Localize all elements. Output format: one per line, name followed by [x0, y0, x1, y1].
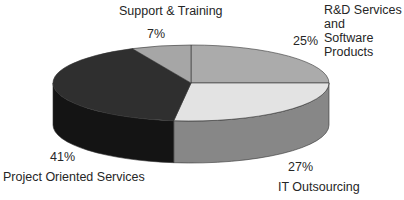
label-support-name: Support & Training — [119, 4, 223, 18]
slice-top-rnd — [191, 45, 329, 83]
label-project-name: Project Oriented Services — [3, 170, 145, 184]
label-it-pct: 27% — [288, 160, 313, 174]
label-rnd-line3: Software — [324, 31, 402, 45]
label-it-name: IT Outsourcing — [278, 180, 360, 194]
label-project-pct: 41% — [50, 150, 75, 164]
label-rnd-line1: R&D Services — [324, 3, 402, 17]
label-rnd-line2: and — [324, 17, 402, 31]
label-support-pct: 7% — [147, 27, 165, 41]
label-rnd-line4: Products — [324, 45, 402, 59]
label-rnd-pct: 25% — [293, 34, 318, 48]
label-rnd-name: R&D Services and Software Products — [324, 3, 402, 59]
